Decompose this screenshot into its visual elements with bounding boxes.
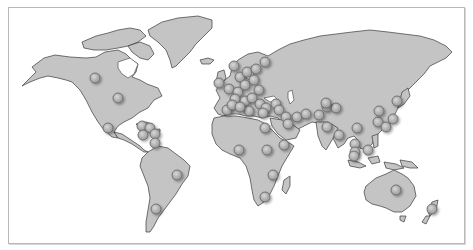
map-marker-africa[interactable] [268,170,278,180]
map-marker-east-asia[interactable] [352,123,362,133]
map-marker-europe[interactable] [214,78,224,88]
map-marker-europe[interactable] [251,64,261,74]
map-marker-east-asia[interactable] [374,106,384,116]
map-marker-south-asia[interactable] [322,122,332,132]
map-marker-europe[interactable] [249,75,259,85]
map-marker-east-asia[interactable] [392,96,402,106]
map-marker-north-america[interactable] [113,93,123,103]
landmass-philippines [372,134,378,148]
map-marker-middle-east[interactable] [235,102,245,112]
map-marker-africa[interactable] [234,145,244,155]
map-marker-south-asia[interactable] [331,103,341,113]
map-marker-europe[interactable] [242,67,252,77]
map-marker-southeast-asia[interactable] [363,145,373,155]
landmass-australia [364,170,416,212]
map-marker-oceania[interactable] [427,204,437,214]
map-marker-south-america[interactable] [172,170,182,180]
map-marker-middle-east[interactable] [292,112,302,122]
map-marker-central-asia[interactable] [321,98,331,108]
landmass-south-america [140,146,190,232]
map-marker-south-america[interactable] [151,204,161,214]
map-marker-africa[interactable] [279,140,289,150]
map-marker-europe[interactable] [254,85,264,95]
map-marker-europe[interactable] [229,61,239,71]
map-marker-caribbean[interactable] [150,129,160,139]
map-marker-africa[interactable] [262,145,272,155]
map-marker-middle-east[interactable] [283,119,293,129]
map-marker-caribbean[interactable] [138,130,148,140]
landmass-tasmania [400,216,406,222]
landmass-baffin-island [128,42,154,60]
map-marker-oceania[interactable] [391,185,401,195]
world-map[interactable] [0,0,473,250]
map-marker-europe[interactable] [224,84,234,94]
map-marker-europe[interactable] [244,106,254,116]
map-marker-caribbean[interactable] [150,138,160,148]
landmass-iceland [200,58,214,64]
map-marker-europe[interactable] [240,80,250,90]
map-marker-east-asia[interactable] [388,114,398,124]
landmass-madagascar [282,176,290,194]
map-marker-south-asia[interactable] [314,110,324,120]
map-marker-europe[interactable] [260,57,270,67]
map-marker-middle-east[interactable] [301,109,311,119]
map-marker-southeast-asia[interactable] [349,151,359,161]
map-marker-south-asia[interactable] [334,130,344,140]
map-marker-africa[interactable] [260,192,270,202]
map-marker-central-america[interactable] [103,123,113,133]
map-marker-north-america[interactable] [90,73,100,83]
map-marker-east-asia[interactable] [381,122,391,132]
map-marker-north-africa[interactable] [260,123,270,133]
map-marker-middle-east[interactable] [258,108,268,118]
